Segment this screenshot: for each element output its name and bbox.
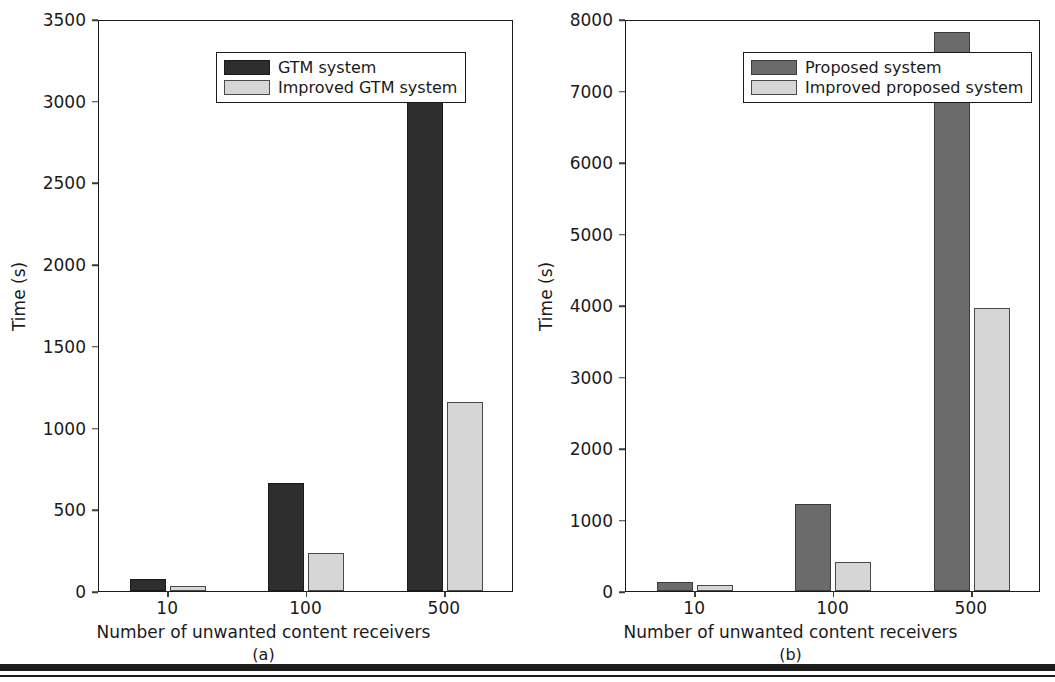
legend-label: GTM system	[278, 58, 376, 77]
legend-swatch-icon	[224, 80, 270, 95]
y-tick-label: 8000	[570, 10, 613, 30]
legend-swatch-icon	[224, 60, 270, 75]
x-tick-mark	[444, 591, 446, 597]
x-tick-label: 100	[816, 598, 848, 618]
chart-panel-a: Time (s) 0500100015002000250030003500 GT…	[0, 0, 527, 660]
legend-item: Proposed system	[751, 58, 1023, 77]
x-axis-ticks-b: 10100500	[625, 598, 1040, 624]
plot-area-b: Proposed systemImproved proposed system	[625, 20, 1040, 592]
bar-container-b	[626, 21, 1039, 591]
y-tick-label: 0	[75, 582, 86, 602]
x-tick-label: 500	[428, 598, 460, 618]
legend-item: Improved GTM system	[224, 78, 457, 97]
y-axis-ticks-b: 010002000300040005000600070008000	[557, 0, 619, 612]
bar-group	[237, 21, 375, 591]
bar	[835, 562, 871, 591]
y-tick-label: 5000	[570, 225, 613, 245]
bar	[697, 585, 733, 591]
bar	[795, 504, 831, 591]
x-axis-ticks-a: 10100500	[98, 598, 513, 624]
x-tick-mark	[167, 591, 169, 597]
legend-a: GTM systemImproved GTM system	[216, 52, 466, 103]
legend-swatch-icon	[751, 80, 797, 95]
y-tick-label: 1500	[43, 337, 86, 357]
x-tick-label: 10	[156, 598, 178, 618]
y-tick-label: 1000	[43, 419, 86, 439]
bar	[974, 308, 1010, 591]
x-tick-label: 500	[955, 598, 987, 618]
bar-group	[99, 21, 237, 591]
bar	[447, 402, 483, 591]
y-tick-label: 3500	[43, 10, 86, 30]
y-tick-label: 2500	[43, 173, 86, 193]
legend-label: Improved GTM system	[278, 78, 457, 97]
bar	[308, 553, 344, 591]
y-tick-label: 3000	[570, 368, 613, 388]
y-tick-label: 500	[54, 500, 86, 520]
figure: Time (s) 0500100015002000250030003500 GT…	[0, 0, 1055, 660]
legend-label: Proposed system	[805, 58, 942, 77]
y-axis-label-b: Time (s)	[533, 0, 559, 592]
bar	[130, 579, 166, 591]
bar-group	[903, 21, 1041, 591]
y-tick-label: 2000	[570, 439, 613, 459]
x-tick-mark	[971, 591, 973, 597]
y-tick-label: 3000	[43, 92, 86, 112]
y-tick-label: 2000	[43, 255, 86, 275]
y-axis-label-a: Time (s)	[6, 0, 32, 592]
legend-swatch-icon	[751, 60, 797, 75]
x-tick-mark	[833, 591, 835, 597]
bar-group	[764, 21, 902, 591]
plot-area-a: GTM systemImproved GTM system	[98, 20, 513, 592]
legend-label: Improved proposed system	[805, 78, 1023, 97]
x-tick-mark	[306, 591, 308, 597]
legend-item: GTM system	[224, 58, 457, 77]
bar	[934, 32, 970, 591]
legend-item: Improved proposed system	[751, 78, 1023, 97]
bar-group	[376, 21, 514, 591]
page-divider-rule-secondary	[0, 675, 1055, 677]
y-tick-label: 6000	[570, 153, 613, 173]
y-tick-label: 0	[602, 582, 613, 602]
x-axis-label-b: Number of unwanted content receivers	[527, 622, 1054, 642]
bar	[170, 586, 206, 591]
y-tick-label: 4000	[570, 296, 613, 316]
page-divider-rule	[0, 664, 1055, 671]
x-tick-label: 10	[683, 598, 705, 618]
x-tick-label: 100	[289, 598, 321, 618]
y-tick-label: 7000	[570, 82, 613, 102]
panel-caption-a: (a)	[0, 645, 527, 664]
bar-group	[626, 21, 764, 591]
y-tick-label: 1000	[570, 511, 613, 531]
bar	[657, 582, 693, 591]
legend-b: Proposed systemImproved proposed system	[743, 52, 1032, 103]
x-axis-label-a: Number of unwanted content receivers	[0, 622, 527, 642]
x-tick-mark	[694, 591, 696, 597]
panel-caption-b: (b)	[527, 645, 1054, 664]
bar	[268, 483, 304, 591]
y-axis-ticks-a: 0500100015002000250030003500	[30, 0, 92, 612]
chart-panel-b: Time (s) 0100020003000400050006000700080…	[527, 0, 1054, 660]
bar	[407, 76, 443, 591]
bar-container-a	[99, 21, 512, 591]
